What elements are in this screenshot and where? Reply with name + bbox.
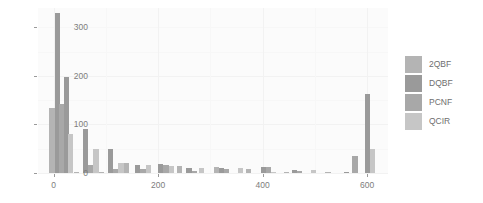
bar [68,134,73,173]
bar [192,171,197,173]
bar [169,166,174,173]
legend-item-qcir[interactable]: QCIR [405,112,480,131]
legend-swatch-icon [405,94,422,111]
bar [177,166,182,173]
plot-panel [38,8,388,173]
bar [271,172,276,173]
x-tick-mark [158,174,159,177]
x-tick-mark [367,174,368,177]
legend-item-label: QCIR [429,117,450,126]
legend-item-pcnf[interactable]: PCNF [405,93,480,112]
bar [325,172,330,173]
bar [238,168,243,173]
y-tick-mark [34,124,37,125]
legend-item-label: DQBF [429,79,453,88]
bar [311,170,316,173]
legend-item-2qbf[interactable]: 2QBF [405,55,480,74]
y-tick-mark [34,173,37,174]
bar [224,169,229,173]
x-tick-label: 200 [138,181,178,190]
legend-swatch-icon [405,56,422,73]
legend-item-dqbf[interactable]: DQBF [405,74,480,93]
bar [199,168,204,173]
legend-swatch-icon [405,75,422,92]
legend-swatch-icon [405,113,422,130]
chart-legend: 2QBFDQBFPCNFQCIR [405,55,480,131]
bars-layer [38,8,388,173]
x-tick-mark [263,174,264,177]
legend-item-label: PCNF [429,98,452,107]
y-tick-label: 100 [48,120,88,129]
y-tick-mark [34,76,37,77]
x-tick-label: 400 [243,181,283,190]
legend-item-label: 2QBF [429,60,451,69]
grid-line-y [38,173,388,174]
bar [49,108,54,174]
bar [93,149,98,173]
bar [99,172,104,173]
bar [352,156,357,173]
bar [284,172,289,173]
y-tick-label: 300 [48,23,88,32]
y-tick-mark [34,27,37,28]
x-tick-label: 600 [347,181,387,190]
bar [370,149,375,173]
x-tick-label: 0 [34,181,74,190]
bar [246,169,251,173]
bar [297,171,302,173]
chart-figure: 0100200300 0200400600 2QBFDQBFPCNFQCIR [0,0,483,203]
y-tick-label: 200 [48,72,88,81]
bar [146,165,151,173]
x-tick-mark [54,174,55,177]
bar [124,163,129,173]
bar [344,172,349,173]
